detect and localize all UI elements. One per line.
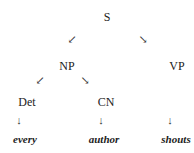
word-every: every <box>13 134 37 145</box>
arrow-down-icon: ↓ <box>16 115 22 126</box>
arrow-down-right-icon: ↘ <box>80 75 89 86</box>
node-cn: CN <box>98 96 115 108</box>
arrow-down-left-icon: ↙ <box>67 34 76 45</box>
word-shouts: shouts <box>161 134 190 145</box>
word-author: author <box>89 134 120 145</box>
arrow-down-right-icon: ↘ <box>138 34 147 45</box>
node-vp: VP <box>169 60 184 72</box>
arrow-down-icon: ↓ <box>167 115 173 126</box>
arrow-down-left-icon: ↙ <box>35 75 44 86</box>
node-det: Det <box>18 96 35 108</box>
node-s: S <box>104 11 111 23</box>
node-np: NP <box>59 60 74 72</box>
arrow-down-icon: ↓ <box>98 115 104 126</box>
